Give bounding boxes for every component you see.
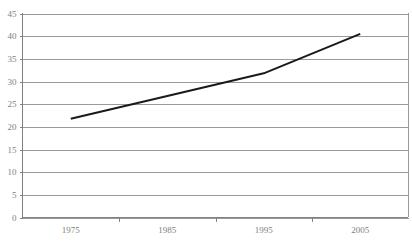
y-tick-label-0: 0 <box>12 213 17 223</box>
x-tick-label-1975: 1975 <box>62 225 81 235</box>
y-tick-label-30: 30 <box>8 77 18 87</box>
y-tick-label-5: 5 <box>12 190 17 200</box>
x-tick-label-2005: 2005 <box>351 225 370 235</box>
y-tick-label-20: 20 <box>8 122 18 132</box>
y-tick-label-40: 40 <box>8 31 18 41</box>
y-tick-label-35: 35 <box>8 54 18 64</box>
chart-canvas: 051015202530354045 1975198519952005 <box>0 0 412 246</box>
y-tick-label-45: 45 <box>8 9 18 19</box>
x-tick-label-1985: 1985 <box>158 225 177 235</box>
line-chart: 051015202530354045 1975198519952005 <box>0 0 412 246</box>
y-tick-label-15: 15 <box>8 145 18 155</box>
y-tick-label-25: 25 <box>8 99 18 109</box>
y-tick-label-10: 10 <box>8 167 18 177</box>
x-tick-label-1995: 1995 <box>255 225 274 235</box>
